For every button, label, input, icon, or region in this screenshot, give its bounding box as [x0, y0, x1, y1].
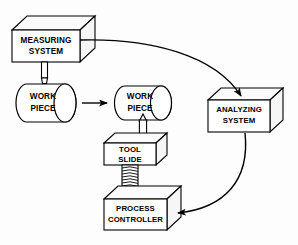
tool-slide-label-line2: SLIDE: [118, 155, 141, 164]
measuring-system-front-face: [12, 30, 80, 62]
work-piece-left-end-cap: [54, 84, 76, 122]
node-work-piece-left[interactable]: WORK PIECE: [16, 84, 76, 122]
work-piece-left-label-line1: WORK: [30, 92, 56, 101]
analyzing-system-label-line2: SYSTEM: [223, 116, 256, 125]
measuring-system-label-line1: MEASURING: [21, 36, 72, 45]
process-controller-label-line2: CONTROLLER: [108, 215, 163, 224]
work-piece-left-label-line2: PIECE: [30, 104, 56, 113]
probe-tip: [42, 78, 48, 84]
machining-control-diagram: MEASURING SYSTEM WORK PIECE WORK PIECE: [0, 0, 298, 245]
process-controller-label-line1: PROCESS: [116, 204, 155, 213]
work-piece-right-label-line2: PIECE: [127, 104, 153, 113]
analyzing-system-label-line1: ANALYZING: [216, 105, 262, 114]
diagram-canvas: MEASURING SYSTEM WORK PIECE WORK PIECE: [0, 0, 298, 245]
node-analyzing-system[interactable]: ANALYZING SYSTEM: [208, 88, 283, 132]
probe-shaft: [42, 62, 48, 78]
node-tool-slide[interactable]: TOOL SLIDE: [104, 133, 167, 165]
connector-measuring-probe: [42, 62, 48, 84]
measuring-system-label-line2: SYSTEM: [29, 47, 63, 56]
node-measuring-system[interactable]: MEASURING SYSTEM: [12, 16, 95, 62]
connector-analyzing-to-controller-curve: [178, 133, 246, 213]
tool-slide-label-line1: TOOL: [119, 145, 141, 154]
work-piece-right-end-cap: [151, 86, 172, 120]
node-process-controller[interactable]: PROCESS CONTROLLER: [104, 186, 181, 230]
work-piece-right-label-line1: WORK: [127, 92, 153, 101]
